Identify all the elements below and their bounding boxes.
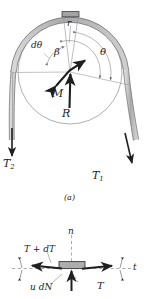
label-tension-T: T xyxy=(97,281,104,291)
datum-line-right xyxy=(70,72,129,85)
label-axis-t: t xyxy=(133,263,137,272)
dN-leader xyxy=(74,275,78,282)
angle-tick-right-lower xyxy=(120,270,122,278)
label-tension-T1: T1 xyxy=(92,170,104,182)
reaction-arrow-R xyxy=(70,74,71,108)
friction-leader xyxy=(52,274,62,283)
label-radius: r xyxy=(67,19,71,28)
element-block xyxy=(59,262,85,269)
label-tension-plus-dT: T + dT xyxy=(24,245,55,254)
label-reaction-R: R xyxy=(62,108,70,119)
dtheta-leader xyxy=(44,54,50,59)
label-tension-T1-sub: 1 xyxy=(99,175,103,183)
label-tension-T2-sub: 2 xyxy=(10,163,14,171)
band-element-block xyxy=(62,12,79,17)
label-beta: β xyxy=(54,47,60,57)
label-friction-udN: u dN xyxy=(30,283,52,292)
label-theta: θ xyxy=(100,47,106,57)
datum-line-left xyxy=(13,72,70,73)
tension-arrow-T1 xyxy=(125,133,132,163)
figure-root: r dθ β θ M R T2 T1 (a) xyxy=(0,0,144,299)
label-dtheta: dθ xyxy=(31,41,42,50)
angle-tick-left-upper xyxy=(20,260,22,268)
arrow-T-plus-dT xyxy=(32,266,62,269)
label-axis-n: n xyxy=(68,227,74,236)
label-tension-T2: T2 xyxy=(3,158,15,170)
diagram-a-canvas xyxy=(0,0,144,200)
label-moment-M: M xyxy=(52,88,63,99)
angle-tick-right-upper xyxy=(120,260,122,268)
angle-tick-left-lower xyxy=(20,270,22,278)
caption-a: (a) xyxy=(64,194,75,202)
